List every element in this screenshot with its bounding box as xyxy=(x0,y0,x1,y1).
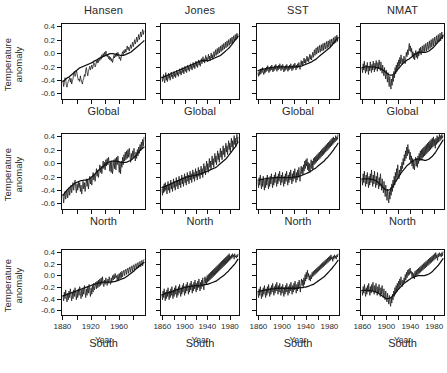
y-tick-marks xyxy=(252,23,256,100)
column-title-sst: SST xyxy=(256,4,340,16)
x-tick-label: 1960 xyxy=(110,322,128,331)
y-tick-labels: 0.40.20.0-0.2-0.4-0.6 xyxy=(27,23,55,100)
series-line-annual-anomaly xyxy=(362,32,443,89)
plot-panel-hansen-south xyxy=(61,249,146,316)
y-axis-label-row-3: Temperatureanomaly xyxy=(3,247,24,323)
plot-panel-hansen-north xyxy=(61,133,146,210)
x-tick-label: 1940 xyxy=(401,322,419,331)
y-tick-label: -0.2 xyxy=(41,282,55,291)
x-tick-label: 1880 xyxy=(53,322,71,331)
y-axis-label-row-1: Temperatureanomaly xyxy=(3,26,24,102)
plot-panel-nmat-south xyxy=(360,249,445,316)
y-tick-marks xyxy=(356,249,360,316)
y-tick-marks xyxy=(356,23,360,100)
y-tick-marks xyxy=(356,133,360,210)
x-tick-label: 1980 xyxy=(425,322,443,331)
y-tick-marks xyxy=(252,249,256,316)
x-tick-marks xyxy=(360,100,445,104)
x-tick-label: 1940 xyxy=(198,322,216,331)
x-tick-marks xyxy=(160,100,240,104)
series-line-annual-anomaly xyxy=(362,252,443,307)
y-tick-label: 0.4 xyxy=(44,247,55,256)
plot-panel-nmat-north xyxy=(360,133,445,210)
series-line-annual-anomaly xyxy=(63,137,144,203)
y-tick-label: 0.4 xyxy=(44,132,55,141)
region-label-south-hansen: South xyxy=(61,337,146,349)
x-tick-marks xyxy=(61,210,146,214)
column-title-nmat: NMAT xyxy=(360,4,445,16)
x-tick-label: 1900 xyxy=(377,322,395,331)
x-tick-labels: 1860190019401980 xyxy=(160,322,240,334)
y-tick-label: 0.0 xyxy=(44,271,55,280)
y-tick-label: -0.2 xyxy=(41,62,55,71)
series-line-annual-anomaly xyxy=(362,134,443,203)
y-tick-label: -0.6 xyxy=(41,199,55,208)
y-axis-label-row-2: Temperatureanomaly xyxy=(3,136,24,212)
x-tick-labels: 1860190019401980 xyxy=(360,322,445,334)
y-axis-label-line2: anomaly xyxy=(14,247,25,323)
plot-panel-jones-global xyxy=(160,23,240,100)
region-label-global-hansen: Global xyxy=(61,105,146,117)
plot-panel-sst-south xyxy=(256,249,340,316)
trend-line xyxy=(63,147,144,195)
x-tick-marks xyxy=(61,316,146,320)
y-tick-label: -0.6 xyxy=(41,89,55,98)
y-tick-marks xyxy=(57,133,61,210)
region-label-south-jones: South xyxy=(160,337,240,349)
y-tick-marks xyxy=(156,249,160,316)
plot-panel-hansen-global xyxy=(61,23,146,100)
plot-panel-sst-global xyxy=(256,23,340,100)
x-tick-label: 1900 xyxy=(176,322,194,331)
x-tick-label: 1920 xyxy=(82,322,100,331)
region-label-global-sst: Global xyxy=(256,105,340,117)
y-tick-label: 0.2 xyxy=(44,259,55,268)
multi-panel-temperature-anomaly-figure: HansenJonesSSTNMATTemperatureanomalyTemp… xyxy=(0,0,447,373)
x-tick-labels: 1860190019401980 xyxy=(256,322,340,334)
y-tick-label: -0.4 xyxy=(41,294,55,303)
y-tick-label: 0.0 xyxy=(44,49,55,58)
y-tick-marks xyxy=(57,249,61,316)
x-tick-marks xyxy=(160,210,240,214)
y-tick-labels: 0.40.20.0-0.2-0.4-0.6 xyxy=(27,133,55,210)
y-tick-label: -0.2 xyxy=(41,172,55,181)
series-line-annual-anomaly xyxy=(63,29,144,87)
region-label-north-hansen: North xyxy=(61,215,146,227)
y-tick-label: 0.4 xyxy=(44,22,55,31)
y-tick-marks xyxy=(57,23,61,100)
y-tick-label: -0.6 xyxy=(41,306,55,315)
region-label-north-jones: North xyxy=(160,215,240,227)
y-tick-label: -0.4 xyxy=(41,75,55,84)
x-tick-marks xyxy=(256,100,340,104)
series-line-annual-anomaly xyxy=(258,134,338,190)
y-tick-marks xyxy=(252,133,256,210)
y-tick-label: 0.0 xyxy=(44,159,55,168)
column-title-jones: Jones xyxy=(160,4,240,16)
x-tick-label: 1980 xyxy=(221,322,239,331)
x-tick-label: 1980 xyxy=(320,322,338,331)
plot-panel-jones-north xyxy=(160,133,240,210)
region-label-south-sst: South xyxy=(256,337,340,349)
y-tick-labels: 0.40.20.0-0.2-0.4-0.6 xyxy=(27,249,55,316)
series-line-annual-anomaly xyxy=(63,259,144,302)
series-line-annual-anomaly xyxy=(258,254,338,299)
x-tick-marks xyxy=(256,316,340,320)
x-tick-label: 1860 xyxy=(353,322,371,331)
series-line-annual-anomaly xyxy=(162,33,238,83)
plot-panel-jones-south xyxy=(160,249,240,316)
x-tick-marks xyxy=(160,316,240,320)
x-tick-marks xyxy=(360,210,445,214)
region-label-north-sst: North xyxy=(256,215,340,227)
x-tick-label: 1860 xyxy=(153,322,171,331)
x-tick-label: 1900 xyxy=(273,322,291,331)
x-tick-marks xyxy=(61,100,146,104)
y-tick-label: 0.2 xyxy=(44,35,55,44)
y-axis-label-line2: anomaly xyxy=(14,136,25,212)
column-title-hansen: Hansen xyxy=(61,4,146,16)
series-line-annual-anomaly xyxy=(162,254,238,301)
x-tick-label: 1940 xyxy=(297,322,315,331)
x-tick-marks xyxy=(256,210,340,214)
region-label-global-jones: Global xyxy=(160,105,240,117)
y-tick-marks xyxy=(156,133,160,210)
plot-panel-sst-north xyxy=(256,133,340,210)
y-axis-label-line2: anomaly xyxy=(14,26,25,102)
